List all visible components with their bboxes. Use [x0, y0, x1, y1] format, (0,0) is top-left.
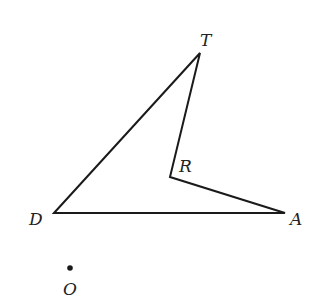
vertex-label-a: A — [288, 209, 302, 229]
vertex-label-t: T — [200, 30, 213, 50]
vertex-label-d: D — [28, 209, 43, 229]
geometry-diagram: T R A D O — [0, 0, 321, 305]
point-o-dot — [67, 265, 73, 271]
point-label-o: O — [63, 279, 77, 299]
quadrilateral-dtra — [54, 53, 285, 213]
vertex-label-r: R — [178, 156, 192, 176]
